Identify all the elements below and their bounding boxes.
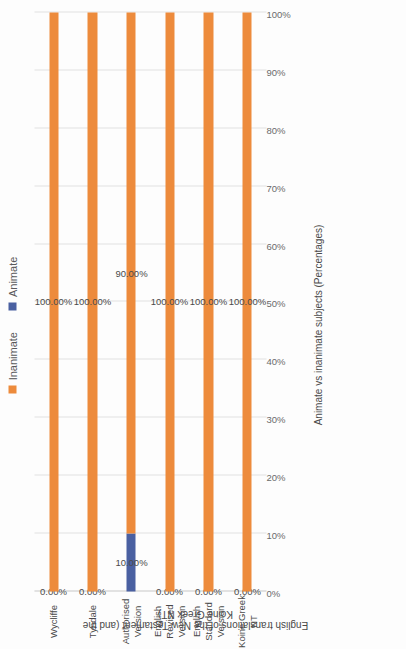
bar-value-label-inanimate: 100.00% xyxy=(151,296,189,307)
legend-swatch-animate xyxy=(8,302,16,310)
plot-area: 0.00%100.00%0.00%100.00%10.00%90.00%0.00… xyxy=(34,12,266,591)
legend-item-inanimate: Inanimate xyxy=(6,332,18,393)
tick-label: 0% xyxy=(266,587,280,598)
tick-label: 80% xyxy=(266,124,285,135)
bar-value-label-inanimate: 100.00% xyxy=(228,296,266,307)
tick-label: 50% xyxy=(266,298,285,309)
category-label: English Revised Version xyxy=(151,593,187,649)
category-label: Authorised Version xyxy=(119,593,143,649)
tick-label: 30% xyxy=(266,413,285,424)
bar-value-label-inanimate: 100.00% xyxy=(35,296,73,307)
tick-label: 70% xyxy=(266,182,285,193)
bar-segment-inanimate: 100.00% xyxy=(203,12,213,591)
category-axis-labels: English translations of the New Testamen… xyxy=(34,593,266,649)
legend-swatch-inanimate xyxy=(8,385,16,393)
bar-row: 10.00%90.00% xyxy=(126,12,136,591)
legend-label-inanimate: Inanimate xyxy=(6,332,18,380)
value-axis-ticks: 0%10%20%30%40%50%60%70%80%90%100% xyxy=(266,12,308,591)
category-label: Tyndale xyxy=(86,593,98,649)
legend-label-animate: Animate xyxy=(6,256,18,296)
chart-legend: Inanimate Animate xyxy=(6,0,18,649)
bar-value-label-inanimate: 100.00% xyxy=(73,296,111,307)
bar-segment-inanimate: 100.00% xyxy=(49,12,59,591)
bar-row: 0.00%100.00% xyxy=(165,12,175,591)
bar-segment-animate: 10.00% xyxy=(126,533,136,591)
bar-rows: 0.00%100.00%0.00%100.00%10.00%90.00%0.00… xyxy=(34,12,266,591)
rotated-chart-canvas: Inanimate Animate 0.00%100.00%0.00%100.0… xyxy=(0,0,406,649)
tick-label: 100% xyxy=(266,8,290,19)
bar-value-label-inanimate: 100.00% xyxy=(189,296,227,307)
category-label: Koine Greek NT xyxy=(235,593,259,649)
bar-value-label-animate: 10.00% xyxy=(115,557,147,568)
bar-chart: Inanimate Animate 0.00%100.00%0.00%100.0… xyxy=(0,0,406,649)
bar-row: 0.00%100.00% xyxy=(49,12,59,591)
legend-item-animate: Animate xyxy=(6,256,18,309)
bar-segment-inanimate: 100.00% xyxy=(165,12,175,591)
bar-value-label-inanimate: 90.00% xyxy=(115,267,147,278)
bar-segment-inanimate: 100.00% xyxy=(242,12,252,591)
tick-label: 90% xyxy=(266,66,285,77)
tick-label: 40% xyxy=(266,355,285,366)
category-label: English Standard Version xyxy=(190,593,226,649)
bar-segment-inanimate: 90.00% xyxy=(126,12,136,533)
tick-label: 60% xyxy=(266,240,285,251)
bar-segment-inanimate: 100.00% xyxy=(87,12,97,591)
tick-label: 10% xyxy=(266,529,285,540)
bar-row: 0.00%100.00% xyxy=(87,12,97,591)
bar-row: 0.00%100.00% xyxy=(203,12,213,591)
value-axis-title: Animate vs inanimate subjects (Percentag… xyxy=(312,0,323,649)
tick-label: 20% xyxy=(266,471,285,482)
category-label: Wycliffe xyxy=(47,593,59,649)
bar-row: 0.00%100.00% xyxy=(242,12,252,591)
